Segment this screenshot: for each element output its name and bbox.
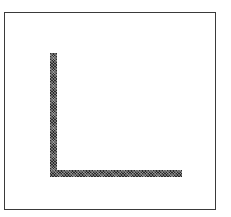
figure-border-frame [4,12,216,210]
l-vertical-stroke [50,53,57,177]
figure-canvas [0,0,231,217]
l-horizontal-stroke [50,170,182,177]
l-shape-glyph [50,53,182,177]
